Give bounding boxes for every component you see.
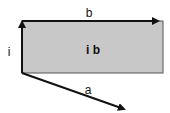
label-area: i b <box>86 43 100 57</box>
vector-a-arrow <box>22 73 124 109</box>
label-b: b <box>86 6 93 20</box>
diagram-canvas: b i i b a <box>0 0 170 113</box>
label-i: i <box>8 45 11 59</box>
label-a: a <box>85 83 92 97</box>
